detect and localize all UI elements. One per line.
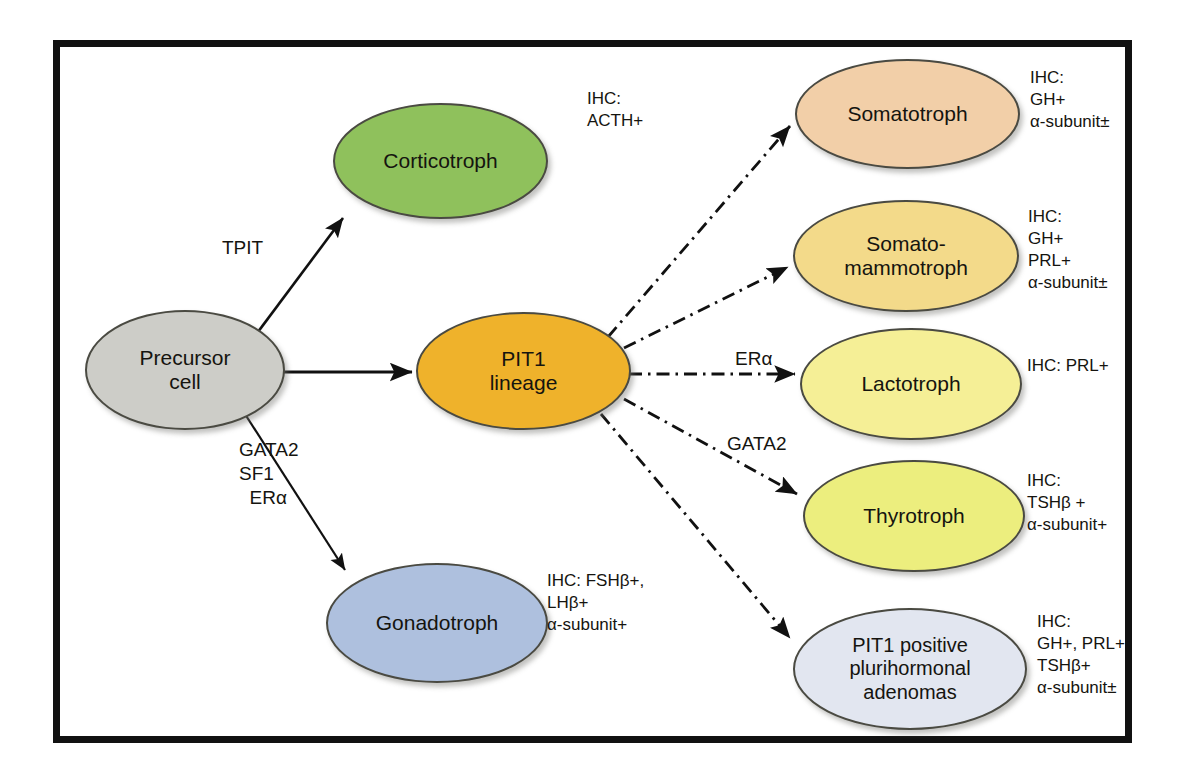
ihc-somatotroph: IHC: GH+ α-subunit± — [1030, 67, 1110, 133]
node-label-precursor-cell: Precursor cell — [133, 346, 236, 395]
node-somatotroph[interactable]: Somatotroph — [795, 59, 1020, 169]
node-precursor-cell[interactable]: Precursor cell — [85, 310, 285, 430]
node-label-thyrotroph: Thyrotroph — [857, 504, 971, 528]
edge-label-era: ERα — [735, 347, 772, 371]
node-lactotroph[interactable]: Lactotroph — [800, 328, 1022, 440]
figure-canvas: Precursor cell Corticotroph PIT1 lineage… — [0, 0, 1189, 779]
ihc-pit1-plurihormonal: IHC: GH+, PRL+, TSHβ+ α-subunit± — [1037, 611, 1130, 699]
node-pit1-lineage[interactable]: PIT1 lineage — [416, 312, 631, 430]
node-gonadotroph[interactable]: Gonadotroph — [326, 563, 548, 683]
ihc-thyrotroph: IHC: TSHβ + α-subunit+ — [1027, 470, 1107, 536]
node-label-somato-mammotroph: Somato- mammotroph — [838, 232, 974, 281]
node-pit1-positive-plurihormonal-adenomas[interactable]: PIT1 positive plurihormonal adenomas — [793, 608, 1027, 730]
node-label-corticotroph: Corticotroph — [377, 149, 503, 173]
node-label-pit1-lineage: PIT1 lineage — [484, 347, 564, 396]
edge-label-gata2: GATA2 — [727, 432, 786, 456]
ihc-corticotroph: IHC: ACTH+ — [587, 88, 643, 132]
node-label-gonadotroph: Gonadotroph — [370, 611, 505, 635]
edge-label-gata2-sf1-era: GATA2 SF1 ERα — [239, 438, 298, 510]
ihc-lactotroph: IHC: PRL+ — [1027, 355, 1109, 377]
ihc-somato-mammotroph: IHC: GH+ PRL+ α-subunit± — [1028, 206, 1108, 294]
node-somato-mammotroph[interactable]: Somato- mammotroph — [793, 200, 1019, 312]
node-label-somatotroph: Somatotroph — [841, 102, 973, 126]
node-label-pit1-positive-plurihormonal-adenomas: PIT1 positive plurihormonal adenomas — [843, 634, 976, 704]
edge-label-tpit: TPIT — [222, 236, 263, 260]
node-thyrotroph[interactable]: Thyrotroph — [803, 460, 1025, 572]
node-corticotroph[interactable]: Corticotroph — [333, 103, 548, 219]
node-label-lactotroph: Lactotroph — [855, 372, 966, 396]
ihc-gonadotroph: IHC: FSHβ+, LHβ+ α-subunit+ — [547, 570, 644, 636]
